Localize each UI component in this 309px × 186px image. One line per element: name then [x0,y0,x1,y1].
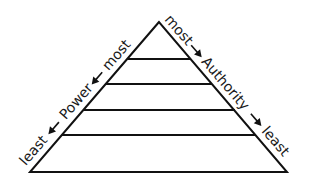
left-label-bottom: least [16,132,51,168]
right-arrow-top-icon [188,43,205,60]
left-label-top: most [99,36,134,73]
right-arrow-bottom-icon [248,111,265,128]
left-edge-label: least Power most [16,36,134,168]
pyramid-diagram: least Power most most Authority [0,0,309,186]
right-label-bottom: least [259,123,294,159]
right-edge-label: most Authority least [162,11,294,159]
left-arrow-bottom-icon [45,120,62,137]
left-arrow-top-icon [89,70,106,87]
